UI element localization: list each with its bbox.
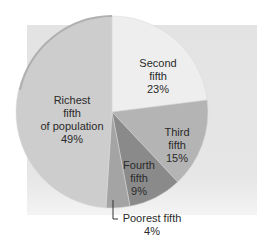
label-third-fifth: Third fifth 15%	[157, 126, 197, 165]
label-fourth-pct: 9%	[119, 185, 159, 198]
label-second-line1: Second	[128, 57, 188, 70]
label-richest-line1: Richest	[32, 94, 112, 107]
label-richest-line2: fifth	[32, 107, 112, 120]
label-richest-fifth: Richest fifth of population 49%	[32, 94, 112, 146]
label-richest-line3: of population	[32, 120, 112, 133]
label-second-line2: fifth	[128, 70, 188, 83]
label-poorest-fifth: Poorest fifth 4%	[117, 212, 187, 238]
label-third-line2: fifth	[157, 139, 197, 152]
label-richest-pct: 49%	[32, 133, 112, 146]
label-second-fifth: Second fifth 23%	[128, 57, 188, 96]
label-fourth-line1: Fourth	[119, 159, 159, 172]
label-third-line1: Third	[157, 126, 197, 139]
label-fourth-fifth: Fourth fifth 9%	[119, 159, 159, 198]
label-second-pct: 23%	[128, 83, 188, 96]
label-third-pct: 15%	[157, 152, 197, 165]
label-fourth-line2: fifth	[119, 172, 159, 185]
label-poorest-pct: 4%	[117, 225, 187, 238]
label-poorest-line1: Poorest fifth	[117, 212, 187, 225]
